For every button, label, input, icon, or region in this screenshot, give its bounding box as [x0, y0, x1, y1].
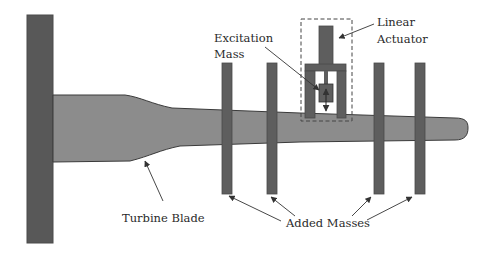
added-mass-3: [374, 63, 384, 194]
leader-turbine-blade: [145, 161, 163, 201]
label-turbine-blade: Turbine Blade: [122, 211, 205, 225]
actuator-column: [319, 26, 333, 65]
added-mass-2: [267, 63, 277, 194]
added-mass-4: [415, 63, 425, 194]
leader-linear-actuator: [339, 24, 374, 38]
fixed-wall: [27, 15, 53, 243]
actuator-leg-left: [305, 71, 315, 118]
label-added-masses: Added Masses: [285, 216, 370, 230]
blade-test-diagram: Linear Actuator Excitation Mass Turbine …: [0, 0, 490, 257]
label-excitation-mass-2: Mass: [214, 47, 245, 61]
turbine-blade-shape: [53, 95, 468, 162]
leader-added-mass-3: [352, 197, 371, 216]
label-linear-actuator-1: Linear: [377, 15, 415, 29]
label-linear-actuator-2: Actuator: [376, 32, 428, 46]
linear-actuator-assembly: [301, 19, 352, 121]
actuator-rod: [324, 71, 328, 85]
added-mass-1: [222, 63, 232, 194]
label-excitation-mass-1: Excitation: [214, 31, 274, 45]
actuator-leg-right: [337, 71, 346, 118]
leader-added-mass-2: [271, 197, 295, 216]
leader-added-mass-4: [367, 197, 412, 220]
actuator-crossbar: [305, 64, 346, 71]
leader-added-mass-1: [229, 196, 281, 221]
